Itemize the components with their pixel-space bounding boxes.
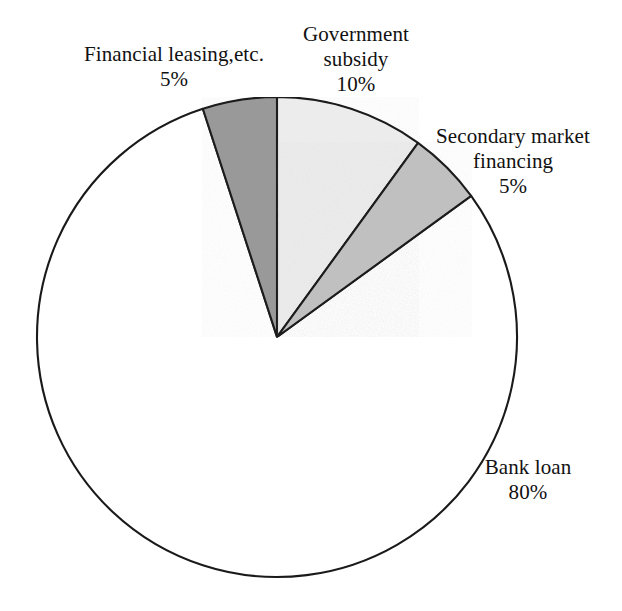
pie-label-secondary-market: Secondary market financing 5% [404,124,622,198]
pie-label-bank-loan-name: Bank loan [438,455,618,480]
pie-label-bank-loan-value: 80% [438,480,618,505]
pie-chart: Financial leasing,etc. 5% Government sub… [0,0,622,611]
pie-label-government-subsidy-name-line2: subsidy [246,47,466,72]
pie-label-secondary-market-name-line1: Secondary market [404,124,622,149]
pie-label-secondary-market-name-line2: financing [404,149,622,174]
pie-label-secondary-market-value: 5% [404,174,622,199]
pie-label-government-subsidy-value: 10% [246,72,466,97]
pie-label-bank-loan: Bank loan 80% [438,455,618,505]
pie-label-government-subsidy-name-line1: Government [246,22,466,47]
pie-label-government-subsidy: Government subsidy 10% [246,22,466,96]
